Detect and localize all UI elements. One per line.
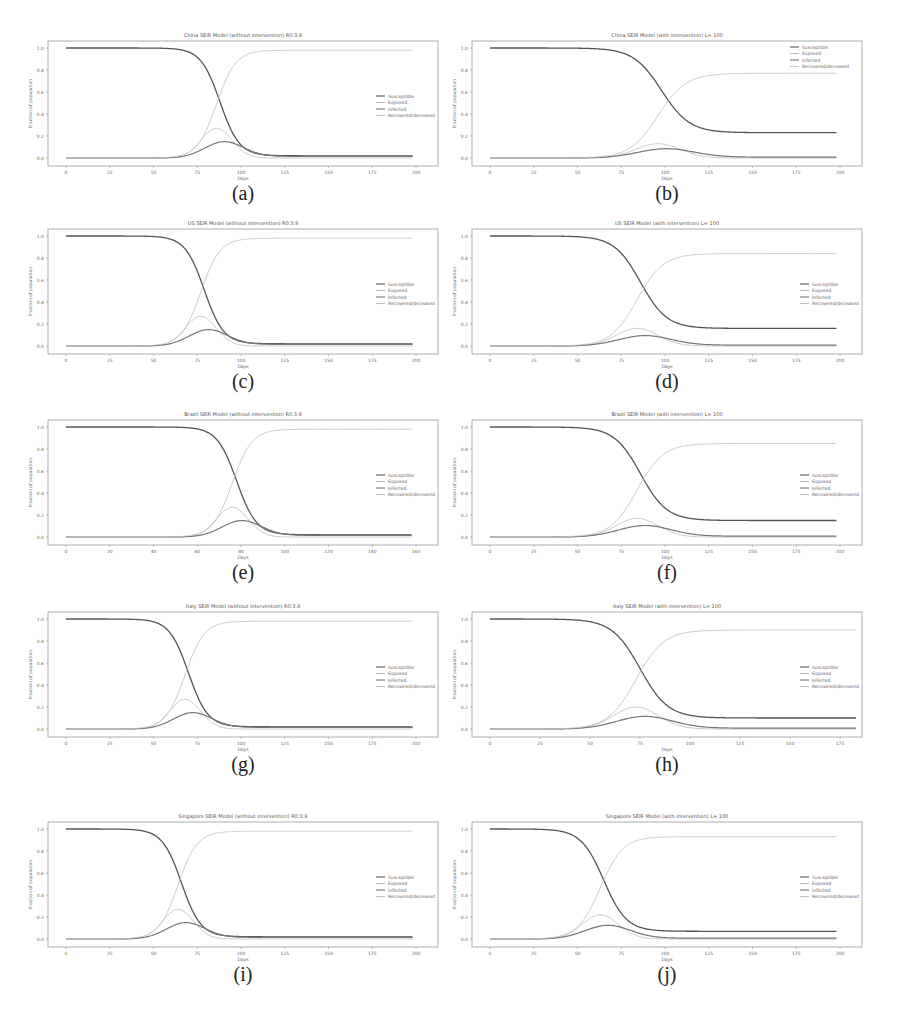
seir-line-chart: China SEIR Model (without intervention) … — [18, 29, 448, 184]
x-tick-label: 100 — [661, 951, 670, 956]
chart-legend: SusceptibleExposedInfectedRecovered/dece… — [376, 665, 435, 690]
y-tick-label: 0.4 — [37, 300, 44, 305]
y-tick-label: 0.4 — [461, 112, 468, 117]
legend-label: Recovered/deceased — [388, 113, 435, 118]
x-tick-label: 175 — [368, 951, 377, 956]
chart-panel-f: Brazil SEIR Model (with intervention) L=… — [442, 408, 872, 593]
legend-label: Susceptible — [812, 473, 838, 478]
y-tick-label: 0.6 — [37, 469, 44, 474]
subfigure-caption: (f) — [637, 561, 697, 584]
x-tick-label: 50 — [151, 741, 157, 746]
legend-label: Infected — [812, 486, 831, 491]
legend-label: Infected — [388, 486, 407, 491]
seir-line-chart: Brazil SEIR Model (without intervention)… — [18, 408, 448, 563]
x-tick-label: 100 — [661, 358, 670, 363]
chart-panel-j: Singapore SEIR Model (with intervention)… — [442, 810, 872, 995]
legend-label: Infected — [812, 295, 831, 300]
x-tick-label: 0 — [489, 358, 492, 363]
y-tick-label: 0.0 — [461, 535, 468, 540]
subfigure-caption: (a) — [213, 182, 273, 205]
x-tick-label: 25 — [531, 358, 537, 363]
x-tick-label: 50 — [575, 549, 581, 554]
y-tick-label: 1.0 — [461, 234, 468, 239]
y-tick-label: 1.0 — [37, 46, 44, 51]
x-tick-label: 75 — [618, 358, 624, 363]
x-tick-label: 160 — [412, 549, 421, 554]
x-tick-label: 150 — [748, 549, 757, 554]
y-axis-label: Fraction of population — [28, 458, 33, 507]
legend-label: Infected — [812, 678, 831, 683]
legend-label: Infected — [802, 58, 821, 63]
series-line-recovered-deceased — [66, 831, 413, 939]
legend-label: Exposed — [388, 100, 407, 105]
y-tick-label: 0.4 — [461, 893, 468, 898]
x-tick-label: 60 — [194, 549, 200, 554]
legend-label: Recovered/deceased — [388, 894, 435, 899]
chart-title: Brazil SEIR Model (without intervention)… — [184, 411, 302, 417]
chart-title: China SEIR Model (with intervention) L= … — [611, 32, 723, 38]
y-tick-label: 0.8 — [461, 849, 468, 854]
x-tick-label: 175 — [792, 951, 801, 956]
x-tick-label: 75 — [194, 741, 200, 746]
y-tick-label: 0.4 — [461, 300, 468, 305]
chart-panel-g: Italy SEIR Model (without intervention) … — [18, 600, 448, 785]
x-tick-label: 100 — [237, 358, 246, 363]
y-tick-label: 0.2 — [37, 513, 44, 518]
legend-label: Exposed — [812, 671, 831, 676]
legend-label: Susceptible — [388, 94, 414, 99]
legend-label: Susceptible — [388, 473, 414, 478]
x-tick-label: 175 — [368, 170, 377, 175]
x-tick-label: 25 — [107, 358, 113, 363]
y-tick-label: 0.0 — [37, 937, 44, 942]
legend-label: Infected — [812, 888, 831, 893]
y-tick-label: 0.0 — [37, 344, 44, 349]
x-tick-label: 125 — [704, 358, 713, 363]
x-axis-label: Days — [237, 747, 249, 752]
x-axis-label: Days — [661, 555, 673, 560]
series-line-susceptible — [66, 619, 413, 727]
x-tick-label: 0 — [65, 358, 68, 363]
seir-line-chart: US SEIR Model (without intervention) R0:… — [18, 217, 448, 372]
y-tick-label: 0.0 — [37, 535, 44, 540]
y-tick-label: 0.0 — [461, 937, 468, 942]
legend-label: Susceptible — [388, 282, 414, 287]
subfigure-caption: (d) — [637, 370, 697, 393]
y-tick-label: 0.4 — [37, 683, 44, 688]
x-tick-label: 140 — [368, 549, 377, 554]
x-tick-label: 200 — [836, 951, 845, 956]
x-tick-label: 25 — [531, 549, 537, 554]
y-tick-label: 0.0 — [37, 727, 44, 732]
axes-frame — [48, 822, 438, 947]
series-line-exposed — [66, 699, 413, 729]
y-tick-label: 1.0 — [461, 425, 468, 430]
x-tick-label: 125 — [704, 170, 713, 175]
axes-frame — [48, 420, 438, 545]
x-tick-label: 25 — [107, 951, 113, 956]
x-tick-label: 0 — [65, 741, 68, 746]
chart-title: US SEIR Model (with intervention) L= 100 — [615, 220, 719, 226]
y-axis-label: Fraction of population — [28, 79, 33, 128]
y-axis-label: Fraction of population — [452, 79, 457, 128]
chart-legend: SusceptibleExposedInfectedRecovered/dece… — [376, 94, 435, 119]
chart-title: Italy SEIR Model (without intervention) … — [186, 603, 301, 610]
x-tick-label: 125 — [280, 741, 289, 746]
y-tick-label: 0.6 — [37, 278, 44, 283]
y-axis-label: Fraction of population — [452, 458, 457, 507]
x-tick-label: 25 — [531, 170, 537, 175]
chart-legend: SusceptibleExposedInfectedRecovered/dece… — [376, 875, 435, 900]
series-line-recovered-deceased — [66, 50, 413, 158]
y-tick-label: 1.0 — [37, 425, 44, 430]
legend-label: Exposed — [388, 671, 407, 676]
y-tick-label: 1.0 — [37, 234, 44, 239]
x-tick-label: 80 — [238, 549, 244, 554]
y-tick-label: 0.2 — [461, 322, 468, 327]
subfigure-caption: (j) — [637, 963, 697, 986]
y-tick-label: 0.6 — [461, 661, 468, 666]
axes-frame — [472, 229, 862, 354]
x-tick-label: 0 — [65, 951, 68, 956]
legend-label: Exposed — [812, 288, 831, 293]
x-tick-label: 25 — [107, 741, 113, 746]
series-line-susceptible — [490, 48, 837, 133]
x-tick-label: 175 — [792, 549, 801, 554]
x-tick-label: 200 — [836, 358, 845, 363]
